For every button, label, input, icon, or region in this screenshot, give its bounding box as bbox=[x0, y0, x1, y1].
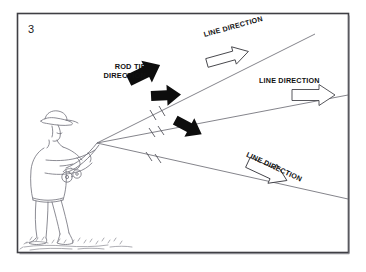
rod-tip-direction-label: ROD TIP DIRECTION bbox=[90, 62, 146, 80]
panel-number: 3 bbox=[28, 24, 34, 36]
diagram-canvas bbox=[0, 0, 366, 272]
rod-tip-direction-label-line2: DIRECTION bbox=[90, 71, 146, 80]
rod-tip-direction-label-line1: ROD TIP bbox=[90, 62, 146, 71]
line-direction-label-middle: LINE DIRECTION bbox=[259, 77, 320, 85]
panel-frame bbox=[18, 14, 350, 254]
figure-root: 3 ROD TIP DIRECTION LINE DIRECTION LINE … bbox=[0, 0, 366, 272]
